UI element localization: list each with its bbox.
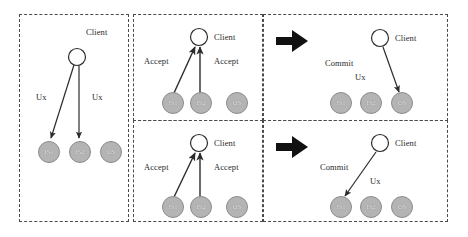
edge-label-ux-right-p1: Ux xyxy=(92,93,103,102)
node-is2-p2 xyxy=(191,93,212,114)
node-is2-p4 xyxy=(191,197,212,218)
edge-is1-client-p2 xyxy=(174,47,195,93)
client-label-p4: Client xyxy=(214,139,235,148)
diagram-canvas: Client Ux Ux IS1 IS2 OS Client Accept Ac… xyxy=(0,0,468,237)
client-node-p5 xyxy=(372,135,389,152)
client-node-p1 xyxy=(69,49,86,66)
panel-broadcast-graphics xyxy=(39,49,122,163)
edge-label-accept-right-p4: Accept xyxy=(214,163,239,172)
transition-arrow-top xyxy=(276,30,308,52)
client-node-p4 xyxy=(191,135,208,152)
node-os-p4 xyxy=(227,197,248,218)
client-node-p2 xyxy=(191,29,208,46)
node-is1-p3 xyxy=(331,93,352,114)
edge-label-ux-p5: Ux xyxy=(370,177,381,186)
edge-label-accept-right-p2: Accept xyxy=(214,57,239,66)
client-label-p5: Client xyxy=(395,139,416,148)
node-os-p5 xyxy=(392,197,413,218)
node-os-p3 xyxy=(392,93,413,114)
node-is2-p3 xyxy=(361,93,382,114)
edge-label-accept-left-p2: Accept xyxy=(144,57,169,66)
transition-arrow-bottom xyxy=(276,136,308,158)
edge-label-ux-p3: Ux xyxy=(355,73,366,82)
edge-label-commit-p5: Commit xyxy=(320,163,348,172)
edge-client-is1-p1 xyxy=(51,65,74,138)
edge-client-os-p3 xyxy=(383,47,399,92)
node-os-p1 xyxy=(101,142,122,163)
node-is2-p1 xyxy=(70,142,91,163)
node-is1-p5 xyxy=(331,197,352,218)
edge-label-accept-left-p4: Accept xyxy=(144,163,169,172)
client-label-p1: Client xyxy=(86,28,107,37)
node-os-p2 xyxy=(227,93,248,114)
edge-label-commit-p3: Commit xyxy=(325,59,353,68)
node-is1-p4 xyxy=(163,197,184,218)
edge-client-is1-p5 xyxy=(345,152,376,196)
node-is1-p1 xyxy=(39,142,60,163)
client-label-p3: Client xyxy=(395,34,416,43)
edge-label-ux-left-p1: Ux xyxy=(36,93,47,102)
edge-is1-client-p4 xyxy=(174,153,195,197)
node-is2-p5 xyxy=(361,197,382,218)
client-node-p3 xyxy=(372,30,389,47)
node-is1-p2 xyxy=(163,93,184,114)
client-label-p2: Client xyxy=(214,33,235,42)
